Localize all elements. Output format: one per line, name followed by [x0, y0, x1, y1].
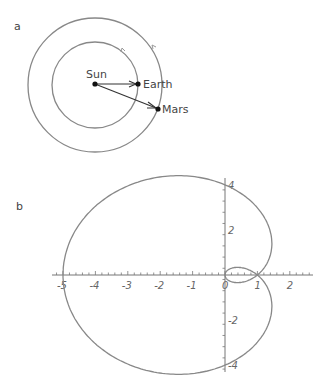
earth-dot — [135, 81, 140, 86]
mars-dot — [155, 106, 160, 111]
earth-orbit-direction-icon — [121, 48, 125, 52]
x-tick-label: -4 — [89, 280, 99, 291]
y-tick-label: 2 — [228, 225, 234, 236]
earth-label: Earth — [143, 78, 173, 91]
sun-dot — [92, 81, 97, 86]
axes: -5-4-3-2-101242-2-4 — [52, 178, 313, 372]
x-tick-label: -1 — [187, 280, 197, 291]
x-tick-label: -3 — [122, 280, 132, 291]
figure: a Sun Earth Mars b -5-4-3-2-101242-2-4 — [0, 0, 325, 392]
x-tick-label: 1 — [254, 280, 260, 291]
x-tick-label: -2 — [154, 280, 164, 291]
x-tick-label: 2 — [287, 280, 293, 291]
x-tick-label: 0 — [222, 280, 228, 291]
panel-a-label: a — [14, 20, 21, 33]
x-tick-label: -5 — [57, 280, 67, 291]
sun-label: Sun — [86, 68, 107, 81]
mars-orbit-direction-icon — [152, 45, 156, 49]
y-tick-label: -2 — [228, 315, 238, 326]
mars-label: Mars — [162, 103, 189, 116]
panel-b-label: b — [16, 200, 23, 213]
